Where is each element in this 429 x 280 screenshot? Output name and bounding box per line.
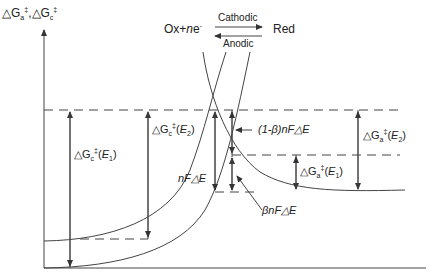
reaction-left: Ox+ne-: [164, 22, 202, 36]
reaction-right: Red: [273, 22, 295, 36]
label-dGa-E1: △Ga‡(E1): [300, 164, 343, 179]
label-nFdE: nF△E: [178, 172, 206, 185]
label-one-minus-beta: (1-β)nF△E: [258, 123, 310, 136]
anodic-label: Anodic: [223, 38, 254, 49]
label-dGc-E2: △Gc‡(E2): [152, 122, 195, 137]
label-dGc-E1: △Gc‡(E1): [74, 147, 117, 162]
curve-ox-e2: [44, 52, 226, 241]
label-dGa-E2: △Ga‡(E2): [363, 128, 406, 143]
cathodic-label: Cathodic: [218, 12, 257, 23]
y-axis-label: △Ga‡,△Gc‡: [2, 6, 57, 21]
label-beta-term: βnF△E: [262, 204, 296, 217]
